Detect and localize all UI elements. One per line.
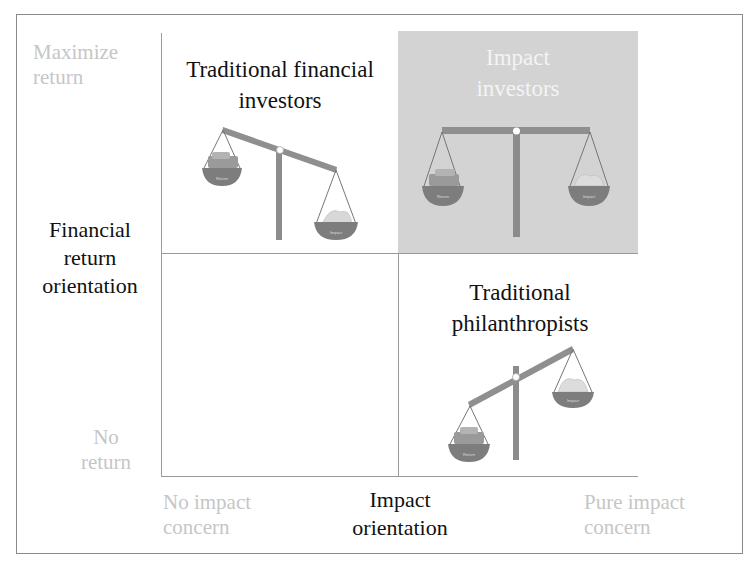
y-axis-title: Financial return orientation	[24, 216, 156, 300]
y-axis-bottom-label: No return	[60, 425, 152, 475]
y-axis-top-label-line1: Maximize	[33, 40, 118, 65]
x-axis-left-label-line2: concern	[163, 515, 251, 540]
pan-label-return: Return	[437, 194, 449, 199]
pan-label-return: Return	[216, 176, 228, 181]
quadrant-title-line1: Impact	[448, 42, 588, 73]
quadrant-title-traditional-philanthropists: Traditional philanthropists	[430, 277, 610, 339]
pan-label-impact: Impact	[583, 194, 596, 199]
balance-scale-icon-balanced: Return Impact	[420, 122, 610, 242]
quadrant-title-line1: Traditional financial	[165, 54, 395, 85]
center-vertical-divider	[398, 253, 399, 476]
y-axis-bottom-label-line2: return	[60, 450, 152, 475]
quadrant-title-line2: philanthropists	[430, 308, 610, 339]
y-axis-top-label: Maximize return	[33, 40, 118, 90]
x-axis-left-label-line1: No impact	[163, 490, 251, 515]
y-axis-title-line1: Financial	[24, 216, 156, 244]
pan-label-impact: Impact	[330, 230, 343, 235]
quadrant-title-line1: Traditional	[430, 277, 610, 308]
x-axis-line	[161, 476, 638, 477]
pan-label-impact: Impact	[567, 398, 580, 403]
x-axis-title: Impact orientation	[330, 486, 470, 542]
quadrant-title-impact-investors: Impact investors	[448, 42, 588, 104]
x-axis-right-label: Pure impact concern	[584, 490, 685, 540]
y-axis-bottom-label-line1: No	[60, 425, 152, 450]
x-axis-title-line2: orientation	[330, 514, 470, 542]
x-axis-right-label-line2: concern	[584, 515, 685, 540]
balance-scale-icon-impact-heavy: Return Impact	[440, 340, 610, 465]
x-axis-title-line1: Impact	[330, 486, 470, 514]
y-axis-title-line2: return	[24, 244, 156, 272]
quadrant-title-traditional-financial-investors: Traditional financial investors	[165, 54, 395, 116]
balance-scale-icon-return-heavy: Return Impact	[190, 120, 360, 245]
x-axis-left-label: No impact concern	[163, 490, 251, 540]
quadrant-title-line2: investors	[165, 85, 395, 116]
x-axis-right-label-line1: Pure impact	[584, 490, 685, 515]
quadrant-title-line2: investors	[448, 73, 588, 104]
pan-label-return: Return	[463, 452, 475, 457]
y-axis-title-line3: orientation	[24, 272, 156, 300]
y-axis-top-label-line2: return	[33, 65, 118, 90]
empty-quadrant-bottom-left	[162, 254, 398, 476]
